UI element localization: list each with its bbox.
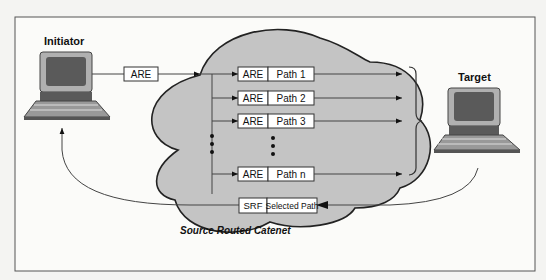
diagram: Initiator Target ARE AREPath 1AREPath 2A… — [0, 0, 546, 280]
path-frame-label: ARE — [243, 69, 264, 80]
target-label: Target — [458, 71, 491, 83]
path-name-label: Path 3 — [277, 116, 306, 127]
path-name-label: Path 1 — [277, 69, 306, 80]
return-frame-label: SRF — [244, 200, 263, 211]
path-name-label: Path 2 — [277, 93, 306, 104]
path-frame-label: ARE — [243, 93, 264, 104]
path-name-label: Path n — [277, 169, 306, 180]
ellipsis-dots-left — [210, 134, 214, 154]
cloud-label: Source Routed Catenet — [180, 225, 291, 236]
path-frame-label: ARE — [243, 169, 264, 180]
initiator-label: Initiator — [44, 35, 85, 47]
return-path-label: Selected Path — [266, 201, 319, 211]
outgoing-frame-label: ARE — [131, 69, 152, 80]
path-frame-label: ARE — [243, 116, 264, 127]
ellipsis-dots-center — [271, 136, 275, 156]
